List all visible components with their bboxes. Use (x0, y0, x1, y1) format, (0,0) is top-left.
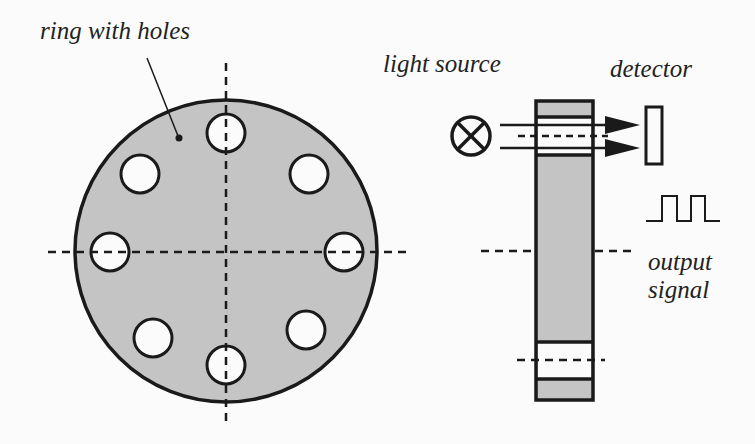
label-signal: signal (648, 276, 709, 303)
diagram-svg: ring with holes light source detector ou… (0, 0, 755, 444)
ring-front-view (48, 58, 410, 425)
label-detector: detector (610, 55, 692, 82)
square-pulse-icon (646, 196, 720, 221)
label-output: output (648, 248, 713, 275)
label-ring-with-holes: ring with holes (40, 17, 190, 44)
arrow-head-icon (605, 139, 640, 157)
label-light-source: light source (383, 50, 501, 77)
crossed-circle-lamp-icon (452, 117, 490, 155)
detector-box (646, 107, 662, 164)
arrow-head-icon (605, 116, 640, 134)
optical-encoder-diagram: ring with holes light source detector ou… (0, 0, 755, 444)
ring-pointer-dot (176, 135, 183, 142)
